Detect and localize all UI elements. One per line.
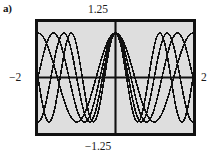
x-axis-max-label: 2 <box>201 71 207 83</box>
plot-area <box>38 22 193 133</box>
figure-panel-a: a) 1.25 −1.25 −2 2 <box>0 0 212 160</box>
y-axis-max-label: 1.25 <box>0 3 212 15</box>
curves-svg <box>38 22 193 133</box>
plot-frame <box>35 19 196 136</box>
x-axis-min-label: −2 <box>9 71 21 83</box>
y-axis-min-label: −1.25 <box>0 140 212 152</box>
